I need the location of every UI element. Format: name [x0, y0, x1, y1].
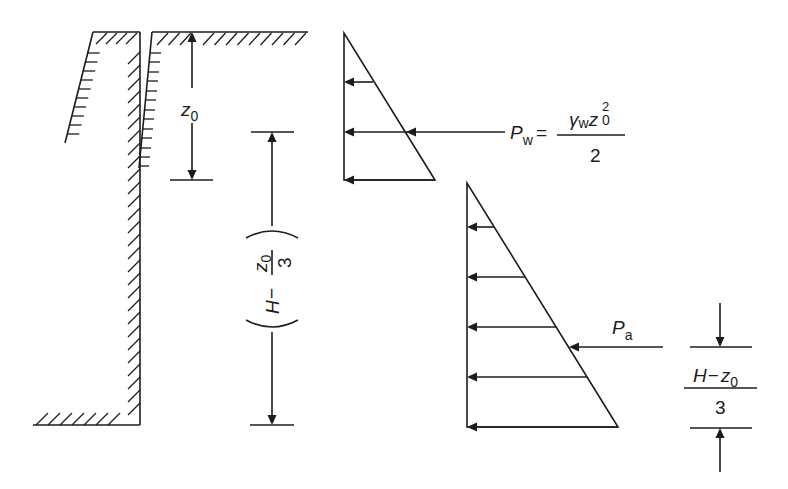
arrow-down-icon — [716, 337, 725, 347]
paren-close — [246, 231, 298, 238]
arrow-left-icon — [467, 373, 477, 382]
pa-label: Pa — [612, 317, 633, 343]
water-pressure-triangle — [344, 33, 435, 180]
svg-text:z0: z0 — [250, 255, 274, 274]
svg-text:0: 0 — [602, 112, 610, 128]
earth-pressure-diagram: z0 H − z0 3 Pw = γwz 2 — [0, 0, 788, 489]
hatch-crack-face — [139, 53, 161, 166]
ground-profile — [33, 32, 308, 425]
arrow-left-icon — [467, 323, 477, 332]
cut-face-left — [65, 32, 93, 143]
h-minus-z0-label: H−z0 — [693, 365, 738, 390]
hatch-top-right — [157, 33, 306, 45]
z0-label: z0 — [180, 99, 199, 124]
paren-open — [246, 320, 298, 327]
svg-text:Pw: Pw — [510, 122, 534, 148]
arrow-up-icon — [188, 32, 197, 42]
svg-text:H: H — [262, 300, 283, 314]
arrow-up-icon — [268, 132, 277, 142]
svg-text:γwz: γwz — [569, 109, 599, 131]
svg-text:=: = — [536, 122, 547, 143]
arrow-left-icon — [467, 273, 477, 282]
arrow-left-icon — [344, 176, 354, 185]
earth-pressure-diagram: Pa — [467, 183, 663, 432]
arrow-down-icon — [268, 415, 277, 425]
svg-text:2: 2 — [590, 145, 601, 166]
svg-text:−: − — [261, 288, 282, 299]
hatch-top-left — [96, 33, 137, 44]
dimension-h-minus-z0-over-3: H − z0 3 — [246, 132, 298, 425]
h-minus-z0-over-3-label: H − z0 3 — [246, 231, 298, 327]
water-pressure-diagram: Pw = γwz 2 0 2 — [344, 33, 625, 185]
hatch-wall — [128, 52, 140, 415]
pw-formula: Pw = γwz 2 0 2 — [510, 99, 625, 166]
hatch-base — [36, 413, 120, 425]
hatch-cut-face-left — [67, 53, 99, 134]
arrow-left-icon — [467, 223, 477, 232]
arrow-left-icon — [344, 128, 354, 137]
denominator-3: 3 — [715, 397, 726, 418]
dimension-z0: z0 — [170, 32, 213, 180]
arrow-down-icon — [188, 170, 197, 180]
earth-pressure-triangle — [467, 183, 618, 427]
dimension-resultant-height: H−z0 3 — [684, 303, 757, 472]
svg-text:3: 3 — [274, 257, 295, 268]
arrow-left-icon — [467, 423, 477, 432]
arrow-left-icon — [344, 78, 354, 87]
